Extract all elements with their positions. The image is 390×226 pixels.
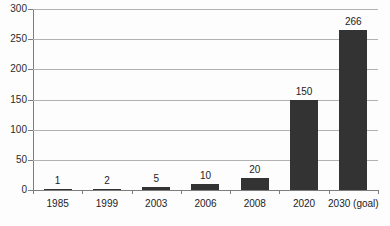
- bar-value-label: 20: [249, 165, 260, 175]
- x-axis-tick-label: 1999: [96, 198, 118, 209]
- bar-value-label: 1: [55, 176, 61, 186]
- bar-value-label: 5: [153, 174, 159, 184]
- x-axis-tick: [279, 190, 280, 194]
- bar-value-label: 266: [345, 17, 362, 27]
- bar-value-label: 150: [296, 87, 313, 97]
- x-axis-tick: [132, 190, 133, 194]
- bar: [290, 100, 318, 191]
- y-axis-tick-label: 100: [0, 125, 27, 135]
- bar-group: 266: [329, 9, 378, 190]
- x-axis-tick: [230, 190, 231, 194]
- x-axis-tick-label: 2020: [293, 198, 315, 209]
- y-axis-tick-label: 0: [0, 185, 27, 195]
- x-axis-tick-label: 2030 (goal): [328, 198, 379, 209]
- bar-group: 2: [82, 9, 131, 190]
- bar-value-label: 10: [200, 171, 211, 181]
- bar-group: 20: [230, 9, 279, 190]
- bar-group: 10: [181, 9, 230, 190]
- bar-series: 1251020150266: [33, 9, 378, 190]
- bar-group: 5: [132, 9, 181, 190]
- bar: [241, 178, 269, 190]
- bar-group: 1: [33, 9, 82, 190]
- x-axis-tick-label: 2003: [145, 198, 167, 209]
- x-axis-tick-label: 2008: [244, 198, 266, 209]
- bar-value-label: 2: [104, 176, 110, 186]
- x-axis-line: [33, 190, 378, 191]
- bar-group: 150: [279, 9, 328, 190]
- y-axis-tick-label: 200: [0, 64, 27, 74]
- x-axis-tick: [33, 190, 34, 194]
- x-axis-tick-label: 2006: [194, 198, 216, 209]
- bar-chart: 050100150200250300 1251020150266 1985199…: [0, 0, 390, 226]
- bar: [339, 30, 367, 191]
- y-axis-tick-label: 250: [0, 34, 27, 44]
- x-axis-tick: [82, 190, 83, 194]
- y-axis-tick-label: 150: [0, 95, 27, 105]
- x-axis-tick: [329, 190, 330, 194]
- y-axis-tick-label: 300: [0, 4, 27, 14]
- x-axis-tick: [181, 190, 182, 194]
- x-axis-tick-label: 1985: [47, 198, 69, 209]
- y-axis-tick-label: 50: [0, 155, 27, 165]
- x-axis-tick: [378, 190, 379, 194]
